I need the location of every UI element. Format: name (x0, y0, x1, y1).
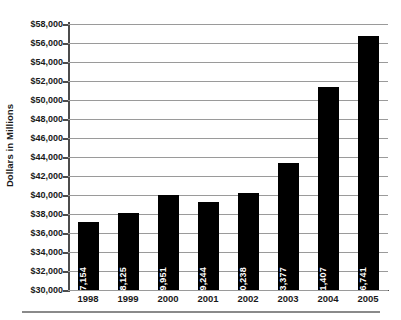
bar-chart-figure: Dollars in Millions $58,000$56,000$54,00… (0, 0, 401, 320)
x-axis-category-label: 1999 (108, 293, 148, 304)
y-axis-tick-label: $46,000 (1, 133, 63, 143)
y-axis-tick-labels: $58,000$56,000$54,000$52,000$50,000$48,0… (0, 24, 63, 290)
y-axis-tick-label: $40,000 (1, 190, 63, 200)
gridline (68, 100, 388, 101)
gridline (68, 176, 388, 177)
y-axis-tick-label: $32,000 (1, 266, 63, 276)
y-axis-tick-mark (63, 290, 68, 292)
x-axis-category-label: 2003 (268, 293, 308, 304)
gridline (68, 62, 388, 63)
y-axis-tick-label: $48,000 (1, 114, 63, 124)
gridline (68, 43, 388, 44)
bar[interactable]: $56,741 (358, 36, 379, 290)
y-axis-tick-mark (63, 233, 68, 235)
gridline (68, 24, 388, 25)
footer-divider (22, 311, 380, 313)
bar-group[interactable]: $56,741 (358, 24, 379, 290)
bar[interactable]: $43,377 (278, 163, 299, 290)
bar[interactable]: $39,244 (198, 202, 219, 290)
y-axis-tick-mark (63, 43, 68, 45)
y-axis-tick-label: $58,000 (1, 19, 63, 29)
y-axis-tick-label: $36,000 (1, 228, 63, 238)
bar[interactable]: $39,951 (158, 195, 179, 290)
y-axis-tick-mark (63, 24, 68, 26)
y-axis-tick-mark (63, 252, 68, 254)
gridline (68, 252, 388, 253)
y-axis-tick-label: $54,000 (1, 57, 63, 67)
y-axis-tick-mark (63, 62, 68, 64)
y-axis-tick-label: $44,000 (1, 152, 63, 162)
y-axis-tick-mark (63, 81, 68, 83)
y-axis-tick-label: $42,000 (1, 171, 63, 181)
y-axis-tick-label: $50,000 (1, 95, 63, 105)
bar-group[interactable]: $40,238 (238, 24, 259, 290)
gridline (68, 271, 388, 272)
x-axis-tick-labels: 19981999200020012002200320042005 (68, 293, 388, 309)
gridline (68, 290, 388, 291)
y-axis-tick-label: $34,000 (1, 247, 63, 257)
gridline (68, 119, 388, 120)
y-axis-tick-mark (63, 271, 68, 273)
bar-group[interactable]: $51,407 (318, 24, 339, 290)
y-axis-tick-label: $56,000 (1, 38, 63, 48)
x-axis-category-label: 2001 (188, 293, 228, 304)
y-axis-tick-mark (63, 138, 68, 140)
bar-group[interactable]: $38,125 (118, 24, 139, 290)
bar-group[interactable]: $37,154 (78, 24, 99, 290)
y-axis-tick-mark (63, 176, 68, 178)
y-axis-tick-label: $30,000 (1, 285, 63, 295)
gridline (68, 81, 388, 82)
plot-area: $37,154$38,125$39,951$39,244$40,238$43,3… (68, 24, 388, 290)
x-axis-category-label: 2005 (348, 293, 388, 304)
bar[interactable]: $40,238 (238, 193, 259, 290)
x-axis-category-label: 2000 (148, 293, 188, 304)
y-axis-tick-mark (63, 100, 68, 102)
bar[interactable]: $38,125 (118, 213, 139, 290)
gridline (68, 157, 388, 158)
bar[interactable]: $37,154 (78, 222, 99, 290)
gridline (68, 233, 388, 234)
y-axis-tick-mark (63, 157, 68, 159)
y-axis-tick-mark (63, 119, 68, 121)
bar[interactable]: $51,407 (318, 87, 339, 290)
gridline (68, 138, 388, 139)
y-axis-tick-label: $52,000 (1, 76, 63, 86)
bar-group[interactable]: $39,244 (198, 24, 219, 290)
x-axis-category-label: 2004 (308, 293, 348, 304)
bar-group[interactable]: $39,951 (158, 24, 179, 290)
bar-group[interactable]: $43,377 (278, 24, 299, 290)
gridline (68, 214, 388, 215)
y-axis-tick-mark (63, 195, 68, 197)
y-axis-tick-mark (63, 214, 68, 216)
y-axis-tick-label: $38,000 (1, 209, 63, 219)
x-axis-category-label: 1998 (68, 293, 108, 304)
x-axis-category-label: 2002 (228, 293, 268, 304)
gridline (68, 195, 388, 196)
